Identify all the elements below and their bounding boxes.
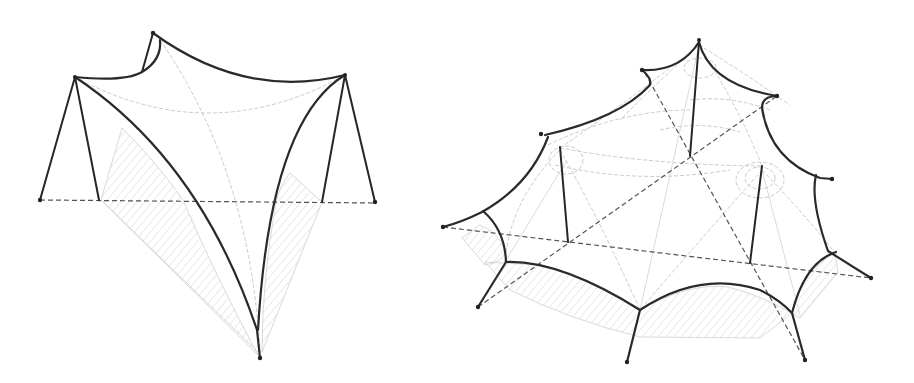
anchor-point [151,31,155,35]
ground-axis-line [40,200,375,203]
anchor-point [73,75,77,79]
right-shadow-hatch [262,173,322,352]
mast [75,77,99,200]
anchor-point [343,73,347,77]
shadow-hatch [485,262,792,338]
left-shadow-hatch [101,128,258,355]
left-membrane-drawing [38,31,377,360]
shadow-hatch [792,253,838,318]
mast [750,166,762,263]
edge-cable [153,33,345,82]
tensile-structure-diagram [0,0,914,383]
mast [345,75,375,202]
anchor-point [258,356,262,360]
mast [40,77,75,200]
anchor-point [373,200,377,204]
right-membrane-drawing [441,38,873,364]
mast [322,75,345,202]
anchor-point [38,198,42,202]
edge-cable [75,40,160,79]
